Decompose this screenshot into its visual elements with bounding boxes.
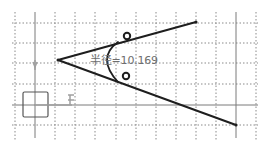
tangent-point-upper [124,33,130,39]
grid-vertical-lines [15,12,256,140]
axis-direction-markers [33,60,74,105]
sketch-canvas[interactable] [0,0,265,152]
radius-dimension-label[interactable]: 半径=10.169 [90,51,158,67]
lower-line [58,60,236,125]
sketch-geometry[interactable] [58,22,236,125]
tangent-point-lower [123,73,129,79]
